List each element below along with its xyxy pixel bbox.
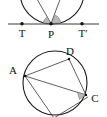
point-dot-c <box>85 94 87 96</box>
label-t-prime: T′ <box>78 27 87 39</box>
tangent-line-circle-panel: T P T′ <box>8 0 99 40</box>
chord-d-c <box>69 59 86 95</box>
chord-a-c <box>25 76 86 95</box>
angle-mark-at-c <box>77 92 85 99</box>
label-c: C <box>91 92 98 104</box>
point-dot-a <box>24 75 27 78</box>
chord-b-c <box>54 97 88 117</box>
geometry-canvas: T P T′ D A C <box>0 0 107 117</box>
angle-mark-left-at-p <box>43 17 51 24</box>
label-d: D <box>66 45 74 57</box>
inscribed-circle <box>23 51 87 115</box>
label-a: A <box>9 64 17 76</box>
point-dot-t <box>20 22 23 25</box>
label-p: P <box>48 28 54 40</box>
point-dot-p <box>49 22 52 25</box>
point-dot-d <box>68 58 70 60</box>
geometry-figure: T P T′ D A C <box>0 0 107 117</box>
point-dot-tprime <box>80 22 83 25</box>
label-t: T <box>19 27 26 39</box>
inscribed-quadrilateral-panel: D A C <box>9 45 99 117</box>
